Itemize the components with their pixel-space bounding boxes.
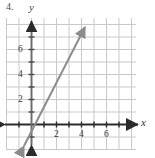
plot-area: [0, 0, 155, 158]
x-tick-label-6: 6: [104, 130, 109, 140]
coordinate-graph-figure: 4. y x: [0, 0, 155, 158]
y-tick-label-4: 4: [18, 70, 23, 80]
x-tick-label-2: 2: [54, 130, 59, 140]
plot-background: [6, 18, 136, 150]
y-tick-label-6: 6: [18, 45, 23, 55]
y-tick-label-2: 2: [18, 95, 23, 105]
x-tick-label-4: 4: [79, 130, 84, 140]
